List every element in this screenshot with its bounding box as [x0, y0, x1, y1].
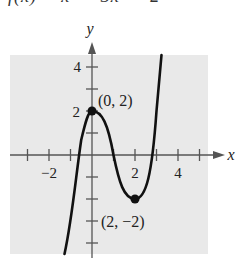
point-label-min: (2, −2) — [101, 213, 145, 231]
y-axis-label: y — [84, 20, 94, 38]
y-axis-arrow-icon — [88, 42, 96, 54]
x-tick-label-4: 4 — [174, 165, 182, 181]
function-graph: x y −2 2 4 4 2 (0, 2) (2, −2) — [0, 0, 238, 262]
y-tick-label-2: 2 — [73, 104, 81, 120]
x-axis-arrow-icon — [213, 151, 225, 159]
local-min-point — [131, 195, 140, 204]
x-axis-label: x — [226, 146, 234, 163]
local-max-point — [88, 107, 97, 116]
x-tick-label-2: 2 — [131, 165, 139, 181]
x-tick-label-neg2: −2 — [41, 165, 57, 181]
y-tick-label-4: 4 — [74, 59, 82, 75]
point-label-max: (0, 2) — [98, 92, 133, 110]
